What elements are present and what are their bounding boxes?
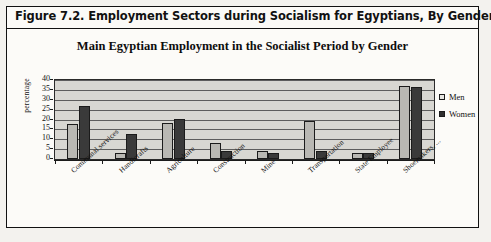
chart-legend: MenWomen xyxy=(439,92,475,126)
y-tick-mark xyxy=(50,109,53,110)
y-tick-label: 20 xyxy=(42,115,50,123)
y-tick-mark xyxy=(50,148,53,149)
bar-men xyxy=(352,153,363,159)
legend-swatch-icon xyxy=(439,94,445,100)
figure-container: Figure 7.2. Employment Sectors during So… xyxy=(0,0,491,242)
legend-item-men[interactable]: Men xyxy=(439,92,475,102)
legend-label: Women xyxy=(449,109,475,119)
y-tick-label: 15 xyxy=(42,124,50,132)
x-tick-mark xyxy=(339,160,340,164)
figure-box: Figure 7.2. Employment Sectors during So… xyxy=(6,6,479,228)
y-axis-ticks: 0510152025303540 xyxy=(27,73,53,166)
bar-women xyxy=(411,87,422,159)
bar-group xyxy=(245,80,292,159)
bar-men xyxy=(115,153,126,159)
x-tick-mark xyxy=(55,160,56,164)
y-tick-label: 40 xyxy=(42,75,50,83)
bar-men xyxy=(399,86,410,159)
legend-label: Men xyxy=(449,92,465,102)
figure-caption: Figure 7.2. Employment Sectors during So… xyxy=(7,7,478,29)
x-tick-mark xyxy=(102,160,103,164)
bar-men xyxy=(210,143,221,159)
x-tick-mark xyxy=(197,160,198,164)
x-tick-mark xyxy=(245,160,246,164)
legend-swatch-icon xyxy=(439,111,445,117)
x-tick-mark xyxy=(434,160,435,164)
y-tick-mark xyxy=(50,128,53,129)
x-tick-mark xyxy=(292,160,293,164)
bar-men xyxy=(162,123,173,159)
chart-title: Main Egyptian Employment in the Socialis… xyxy=(7,39,478,54)
y-tick-mark xyxy=(50,89,53,90)
y-tick-label: 30 xyxy=(42,95,50,103)
y-tick-label: 35 xyxy=(42,85,50,93)
chart-area: Main Egyptian Employment in the Socialis… xyxy=(7,29,478,227)
x-tick-mark xyxy=(150,160,151,164)
y-tick-mark xyxy=(50,158,53,159)
y-tick-mark xyxy=(50,79,53,80)
y-tick-label: 25 xyxy=(42,105,50,113)
y-tick-label: 10 xyxy=(42,134,50,142)
y-tick-mark xyxy=(50,119,53,120)
y-tick-mark xyxy=(50,99,53,100)
bar-men xyxy=(257,151,268,159)
bar-men xyxy=(67,124,78,159)
bar-men xyxy=(304,121,315,160)
x-tick-mark xyxy=(387,160,388,164)
y-tick-mark xyxy=(50,138,53,139)
legend-item-women[interactable]: Women xyxy=(439,109,475,119)
